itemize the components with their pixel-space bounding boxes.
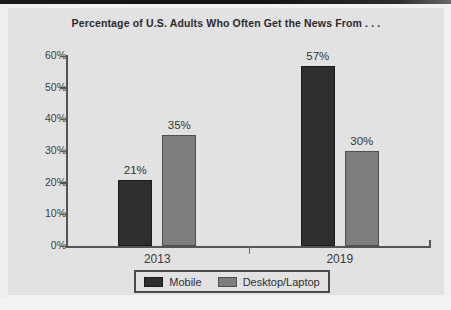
chart-page: Percentage of U.S. Adults Who Often Get … <box>0 0 451 310</box>
bar-value-label: 35% <box>149 119 209 131</box>
legend-swatch-mobile <box>144 277 163 287</box>
chart-figure: Percentage of U.S. Adults Who Often Get … <box>8 8 444 295</box>
bar-desktop-laptop-2019 <box>345 151 379 246</box>
y-axis-tick-label: 0% <box>22 239 66 251</box>
legend-item-mobile: Mobile <box>144 276 201 288</box>
y-axis-tick-label: 30% <box>22 144 66 156</box>
y-axis-tick-label: 10% <box>22 207 66 219</box>
legend-swatch-desktop <box>218 277 237 287</box>
chart-legend: Mobile Desktop/Laptop <box>134 270 330 293</box>
bar-value-label: 57% <box>288 50 348 62</box>
legend-item-desktop: Desktop/Laptop <box>218 276 320 288</box>
y-axis-tick-label: 50% <box>22 81 66 93</box>
y-axis-line <box>66 55 68 248</box>
y-axis-tick-label: 40% <box>22 112 66 124</box>
bar-value-label: 21% <box>105 164 165 176</box>
bar-desktop-laptop-2013 <box>162 135 196 246</box>
legend-label-desktop: Desktop/Laptop <box>243 276 320 288</box>
x-axis-category-label-2019: 2019 <box>295 252 385 266</box>
y-axis-tick-label: 20% <box>22 176 66 188</box>
scan-edge-band-top <box>0 0 451 4</box>
scan-edge-band-left <box>0 4 8 310</box>
bar-mobile-2013 <box>118 180 152 247</box>
bar-value-label: 30% <box>332 135 392 147</box>
bar-mobile-2019 <box>301 66 335 247</box>
legend-label-mobile: Mobile <box>169 276 201 288</box>
x-axis-category-label-2013: 2013 <box>112 252 202 266</box>
x-axis-category-tick <box>249 246 251 254</box>
plot-area: 0%10%20%30%40%50%60%21%35%201357%30%2019 <box>8 8 444 295</box>
x-axis-end-tick <box>429 240 431 248</box>
scan-edge-band-bottom <box>0 298 451 310</box>
y-axis-tick-label: 60% <box>22 49 66 61</box>
